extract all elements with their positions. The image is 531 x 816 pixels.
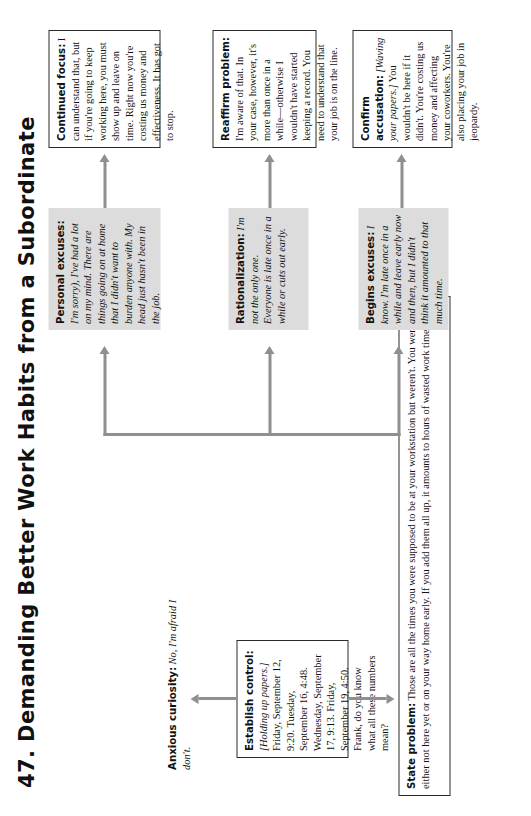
node-anxious-curiosity-label: Anxious curiosity:: [166, 667, 177, 770]
node-continued-focus-text: I can understand that, but if you're goi…: [55, 38, 174, 141]
connector-establish-to-state-arrow: [386, 694, 394, 704]
node-rationalization-label: Rationalization:: [234, 233, 245, 324]
connector-begins-to-confirm-line: [400, 162, 403, 208]
page-title: 47. Demanding Better Work Habits from a …: [14, 28, 38, 788]
connector-state-problem-trunk: [103, 433, 400, 436]
node-personal-excuses-response: I'm sorry), I've had a lot on my mind. T…: [68, 223, 160, 324]
connector-begins-to-confirm-arrow: [396, 154, 406, 162]
connector-rationalization-to-reaffirm-arrow: [264, 154, 274, 162]
node-begins-excuses-label: Begins excuses:: [364, 232, 375, 324]
node-establish-control-label: Establish control:: [243, 650, 254, 751]
node-establish-control-stage: [Holding up papers.]: [257, 662, 268, 751]
connector-rationalization-to-reaffirm-line: [268, 162, 271, 208]
node-reaffirm-problem: Reaffirm problem: I'm aware of that. In …: [212, 30, 316, 148]
node-establish-control-text: Friday, September 12, 9:20. Tuesday, Sep…: [270, 654, 389, 751]
node-reaffirm-problem-label: Reaffirm problem:: [219, 37, 230, 141]
connector-to-rationalization-line: [268, 354, 271, 436]
node-begins-excuses-response: I know. I'm late once in a while and lea…: [364, 215, 443, 324]
node-state-problem: State problem: Those are all the times y…: [398, 296, 450, 796]
node-establish-control: Establish control: [Holding up papers.] …: [236, 640, 348, 758]
node-rationalization: Rationalization: I'm not the only one. E…: [228, 208, 308, 330]
node-personal-excuses-label: Personal excuses:: [54, 220, 65, 324]
connector-to-begins-excuses-line: [397, 354, 400, 436]
connector-to-personal-excuses-line: [103, 354, 106, 436]
connector-personal-to-continued-arrow: [99, 154, 109, 162]
connector-establish-to-anxious-line: [198, 697, 236, 700]
connector-personal-to-continued-line: [103, 162, 106, 208]
node-reaffirm-problem-text: I'm aware of that. In your case, however…: [233, 44, 339, 141]
connector-to-personal-excuses-arrow: [99, 346, 109, 354]
node-continued-focus: Continued focus: I can understand that, …: [48, 30, 160, 148]
node-begins-excuses: Begins excuses: I know. I'm late once in…: [358, 208, 448, 330]
connector-establish-to-anxious-arrow: [190, 694, 198, 704]
flowchart-page: 47. Demanding Better Work Habits from a …: [0, 0, 531, 816]
connector-to-rationalization-arrow: [264, 346, 274, 354]
node-confirm-accusation-label: Confirm accusation:: [359, 75, 384, 141]
node-continued-focus-label: Continued focus:: [55, 44, 66, 141]
connector-to-begins-excuses-arrow: [393, 346, 403, 354]
node-state-problem-label: State problem:: [405, 703, 416, 789]
node-confirm-accusation-text: You wouldn't be here if it didn't. You'r…: [386, 42, 478, 141]
node-personal-excuses: Personal excuses: I'm sorry), I've had a…: [48, 208, 160, 330]
node-confirm-accusation: Confirm accusation: [Waving your papers.…: [352, 30, 452, 148]
connector-establish-to-state-line: [348, 697, 386, 700]
node-anxious-curiosity: Anxious curiosity: No, I'm afraid I don'…: [160, 571, 184, 776]
